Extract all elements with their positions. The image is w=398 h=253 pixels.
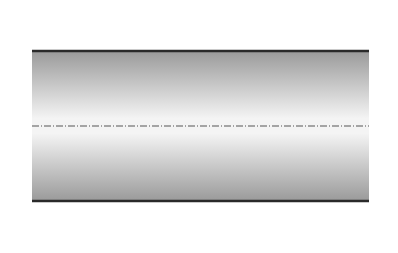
pipe-flow-diagram [0,0,398,253]
